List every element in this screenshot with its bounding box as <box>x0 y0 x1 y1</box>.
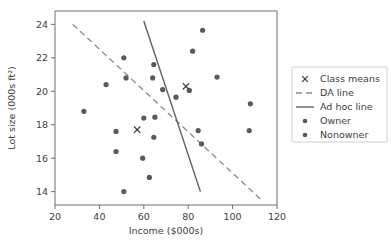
data-point-nonowner <box>81 109 86 114</box>
x-axis-ticks: 20406080100120 <box>49 205 286 222</box>
data-point-owner <box>214 74 219 79</box>
axes-spines <box>55 11 277 205</box>
fitted-lines-group <box>73 21 262 200</box>
y-tick-label: 24 <box>36 19 48 30</box>
data-point-owner <box>160 87 165 92</box>
legend: Class meansDA lineAd hoc lineOwnerNonown… <box>292 67 387 142</box>
x-tick-label: 60 <box>138 211 150 222</box>
data-point-owner <box>151 62 156 67</box>
da-line <box>73 24 262 200</box>
data-point-owner <box>190 49 195 54</box>
data-point-owner <box>199 141 204 146</box>
data-point-owner <box>141 115 146 120</box>
data-point-owner <box>121 55 126 60</box>
x-tick-label: 80 <box>182 211 194 222</box>
y-axis-ticks: 141618202224 <box>36 19 55 197</box>
data-point-nonowner <box>140 156 145 161</box>
class-mean-marker <box>134 127 140 133</box>
legend-label: Ad hoc line <box>320 101 373 112</box>
data-point-owner <box>150 75 155 80</box>
data-point-owner <box>187 88 192 93</box>
x-tick-label: 120 <box>268 211 286 222</box>
data-point-owner <box>248 101 253 106</box>
y-tick-label: 18 <box>36 119 48 130</box>
data-point-nonowner <box>103 82 108 87</box>
legend-label: Class means <box>320 73 380 84</box>
y-axis-label: Lot size (000s ft²) <box>6 66 17 149</box>
axes-spines-top-right <box>55 11 277 205</box>
data-point-nonowner <box>247 128 252 133</box>
x-tick-label: 40 <box>93 211 105 222</box>
data-point-owner <box>173 95 178 100</box>
data-point-owner <box>123 75 128 80</box>
data-point-nonowner <box>113 129 118 134</box>
data-points-group <box>81 28 253 195</box>
x-axis-label: Income ($000s) <box>129 225 204 236</box>
x-tick-label: 20 <box>49 211 61 222</box>
y-tick-label: 14 <box>36 186 48 197</box>
legend-label: DA line <box>320 87 354 98</box>
data-point-nonowner <box>147 175 152 180</box>
class-mean-marker <box>183 83 189 89</box>
legend-label: Owner <box>320 115 351 126</box>
data-point-owner <box>152 115 157 120</box>
chart-canvas: 20406080100120 141618202224 Income ($000… <box>0 0 391 243</box>
x-tick-label: 100 <box>224 211 242 222</box>
y-tick-label: 16 <box>36 153 48 164</box>
data-point-nonowner <box>121 189 126 194</box>
data-point-nonowner <box>151 135 156 140</box>
data-point-owner <box>200 28 205 33</box>
y-tick-label: 22 <box>36 52 48 63</box>
data-point-owner <box>196 128 201 133</box>
discriminant-analysis-scatter-figure: 20406080100120 141618202224 Income ($000… <box>0 0 391 243</box>
legend-label: Nonowner <box>320 129 368 140</box>
data-point-nonowner <box>113 149 118 154</box>
ad-hoc-line <box>144 21 201 192</box>
y-tick-label: 20 <box>36 86 48 97</box>
